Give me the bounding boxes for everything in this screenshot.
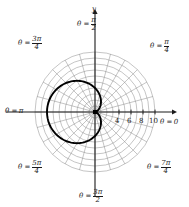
grid-spoke-75deg xyxy=(95,54,111,112)
x-tick-label-8: 8 xyxy=(139,117,143,125)
grid-spoke-120deg xyxy=(65,60,95,112)
theta-pi-over-2-lhs: θ = xyxy=(77,21,89,28)
theta-pi-over-2-label: θ = π 2 xyxy=(77,17,96,33)
grid-spoke-15deg xyxy=(95,96,153,112)
theta-3pi-over-2-label: θ = 3π 2 xyxy=(79,189,103,205)
y-axis-label: y xyxy=(92,5,96,13)
pole-marker xyxy=(93,110,97,114)
theta-zero-lhs: θ = xyxy=(160,119,172,126)
axis-arrow-right xyxy=(172,109,177,114)
theta-5pi-over-4-denominator: 4 xyxy=(32,168,42,175)
grid-spoke-165deg xyxy=(37,96,95,112)
theta-pi-lhs: θ = xyxy=(5,108,17,115)
theta-3pi-over-4-label: θ = 3π 4 xyxy=(18,36,42,52)
theta-pi-numerator: π xyxy=(17,108,23,115)
grid-spoke-285deg xyxy=(95,112,111,170)
theta-7pi-over-4-fraction: 7π 4 xyxy=(161,160,171,176)
theta-3pi-over-4-fraction: 3π 4 xyxy=(32,36,42,52)
theta-5pi-over-4-lhs: θ = xyxy=(18,164,30,171)
x-tick-label-10: 10 xyxy=(149,117,158,125)
theta-pi-over-4-label: θ = π 4 xyxy=(150,39,169,55)
grid-spoke-240deg xyxy=(65,112,95,164)
theta-3pi-over-2-fraction: 3π 2 xyxy=(93,189,103,205)
theta-pi-over-4-fraction: π 4 xyxy=(164,39,170,55)
grid-spoke-345deg xyxy=(95,112,153,128)
theta-3pi-over-4-denominator: 4 xyxy=(32,44,42,51)
theta-3pi-over-2-denominator: 2 xyxy=(93,197,103,204)
theta-3pi-over-4-lhs: θ = xyxy=(18,40,30,47)
theta-5pi-over-4-fraction: 5π 4 xyxy=(32,160,42,176)
theta-pi-over-4-denominator: 4 xyxy=(164,47,170,54)
grid-spoke-195deg xyxy=(37,112,95,128)
theta-pi-over-2-denominator: 2 xyxy=(91,25,97,32)
theta-3pi-over-2-lhs: θ = xyxy=(79,193,91,200)
theta-zero-value: 0 xyxy=(172,119,178,126)
theta-7pi-over-4-label: θ = 7π 4 xyxy=(147,160,171,176)
theta-pi-over-2-fraction: π 2 xyxy=(91,17,97,33)
grid-spoke-30deg xyxy=(95,82,147,112)
grid-spoke-300deg xyxy=(95,112,125,164)
theta-pi-over-4-lhs: θ = xyxy=(150,43,162,50)
theta-5pi-over-4-label: θ = 5π 4 xyxy=(18,160,42,176)
polar-plot-figure: y θ =0 4 6 8 10 θ = π 2 θ = π 4 θ = 3π 4… xyxy=(0,0,189,207)
theta-zero-label: θ =0 xyxy=(160,119,178,126)
theta-7pi-over-4-denominator: 4 xyxy=(161,168,171,175)
grid-spoke-60deg xyxy=(95,60,125,112)
theta-pi-label: θ =π xyxy=(5,108,23,115)
theta-7pi-over-4-lhs: θ = xyxy=(147,164,159,171)
x-tick-label-6: 6 xyxy=(127,117,131,125)
x-tick-label-4: 4 xyxy=(115,117,119,125)
pole-square xyxy=(93,110,97,114)
